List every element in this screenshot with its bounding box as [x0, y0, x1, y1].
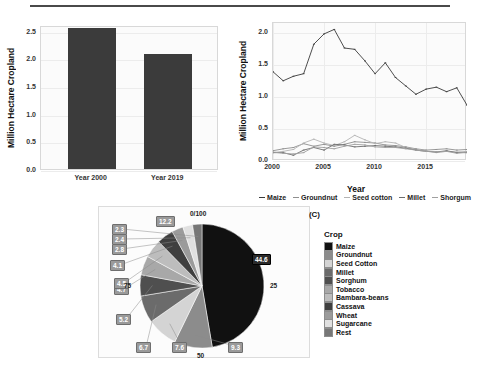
series-line: [273, 29, 467, 105]
series-marker: [395, 147, 397, 148]
pie-slice-label: 2.3: [112, 224, 127, 235]
legend-item[interactable]: Rest: [324, 328, 474, 337]
series-marker: [364, 146, 366, 147]
series-marker: [425, 89, 427, 90]
figure-canvas: Million Hectare Cropland (A) 0.00.51.01.…: [0, 0, 480, 366]
series-marker: [364, 60, 366, 61]
series-marker: [282, 80, 284, 81]
series-marker: [384, 145, 386, 146]
panel-a-y-axis-title: Million Hectare Cropland: [6, 38, 16, 158]
series-marker: [273, 152, 274, 153]
series-marker: [435, 149, 437, 150]
series-marker: [313, 44, 315, 45]
grid-line: [273, 161, 465, 162]
panel-b-line-chart: Million Hectare Cropland (B) Year MaizeG…: [232, 8, 480, 203]
panel-b-y-tick: 0.0: [251, 156, 268, 163]
series-marker: [333, 145, 335, 146]
series-marker: [384, 146, 386, 147]
series-marker: [384, 141, 386, 142]
series-marker: [466, 105, 467, 106]
series-marker: [395, 145, 397, 146]
pie-slice[interactable]: [202, 224, 264, 347]
panel-b-y-axis-title: Million Hectare Cropland: [238, 32, 248, 150]
panel-b-y-tick: 2.0: [251, 28, 268, 35]
panel-b-plot-area: [272, 22, 466, 160]
legend-item-label: Cassava: [336, 303, 364, 310]
panel-a-plot-area: [40, 26, 218, 170]
legend-item[interactable]: Sugarcane: [324, 319, 474, 328]
legend-item[interactable]: Bambara-beans: [324, 294, 474, 303]
legend-item[interactable]: Seed Cotton: [324, 259, 474, 268]
legend-item-label: Rest: [336, 329, 351, 336]
series-marker: [384, 62, 386, 63]
legend-item-label: Maize: [336, 243, 355, 250]
series-marker: [293, 76, 295, 77]
pie-slice-label: 2.8: [112, 244, 127, 255]
series-marker: [313, 146, 315, 147]
pie-slice-label: 44.6: [252, 254, 271, 265]
series-marker: [415, 150, 417, 151]
series-marker: [354, 146, 356, 147]
legend-item-label: Sorghum: [336, 277, 367, 284]
legend-swatch-icon: [344, 197, 350, 199]
series-marker: [466, 152, 467, 153]
panel-b-x-tick: 2010: [363, 163, 385, 170]
legend-item[interactable]: Maize: [324, 242, 474, 251]
series-marker: [425, 151, 427, 152]
pie-axis-tick: 50: [197, 352, 204, 359]
series-marker: [333, 29, 335, 30]
pie-axis-tick: 0/100: [190, 210, 206, 217]
pie-slice-label: 2.4: [112, 234, 127, 245]
legend-swatch-icon: [399, 197, 405, 199]
series-marker: [354, 144, 356, 145]
series-marker: [466, 149, 467, 150]
panel-c-legend-title: Crop: [324, 230, 474, 239]
bar: [68, 28, 116, 169]
series-marker: [282, 151, 284, 152]
legend-item[interactable]: Tobacco: [324, 285, 474, 294]
series-marker: [364, 142, 366, 143]
series-marker: [313, 139, 315, 140]
legend-item-label: Groundnut: [336, 251, 372, 258]
series-marker: [354, 141, 356, 142]
series-marker: [446, 151, 448, 152]
series-marker: [293, 149, 295, 150]
legend-item[interactable]: Groundnut: [324, 251, 474, 260]
series-marker: [354, 49, 356, 50]
series-marker: [293, 147, 295, 148]
series-marker: [435, 87, 437, 88]
series-marker: [323, 147, 325, 148]
legend-swatch-icon: [293, 197, 299, 199]
panel-b-y-tick: 1.5: [251, 60, 268, 67]
panel-a-x-tick: Year 2019: [127, 174, 207, 181]
legend-swatch-icon: [324, 328, 333, 337]
legend-item-label: Seed Cotton: [336, 260, 377, 267]
legend-item[interactable]: Sorghum: [324, 276, 474, 285]
series-marker: [273, 71, 274, 72]
legend-item[interactable]: Wheat: [324, 311, 474, 320]
legend-item[interactable]: Cassava: [324, 302, 474, 311]
series-marker: [282, 153, 284, 154]
series-marker: [435, 152, 437, 153]
series-marker: [323, 143, 325, 144]
pie-slice-label: 4.1: [110, 260, 125, 271]
panel-a-bar-chart: Million Hectare Cropland (A) 0.00.51.01.…: [0, 8, 232, 193]
panel-b-x-tick: 2005: [312, 163, 334, 170]
series-marker: [374, 145, 376, 146]
series-marker: [282, 148, 284, 149]
panel-b-series-layer: [273, 23, 467, 161]
panel-a-y-tick: 1.5: [18, 83, 36, 90]
series-marker: [374, 146, 376, 147]
panel-b-x-axis-title: Year: [232, 184, 480, 194]
series-marker: [344, 145, 346, 146]
series-marker: [456, 153, 458, 154]
panel-a-y-tick: 2.0: [18, 55, 36, 62]
series-marker: [456, 87, 458, 88]
bar: [144, 54, 192, 169]
series-marker: [415, 94, 417, 95]
series-marker: [395, 143, 397, 144]
series-marker: [303, 143, 305, 144]
series-marker: [354, 135, 356, 136]
legend-item[interactable]: Millet: [324, 268, 474, 277]
panel-c-label: (C): [309, 210, 320, 219]
